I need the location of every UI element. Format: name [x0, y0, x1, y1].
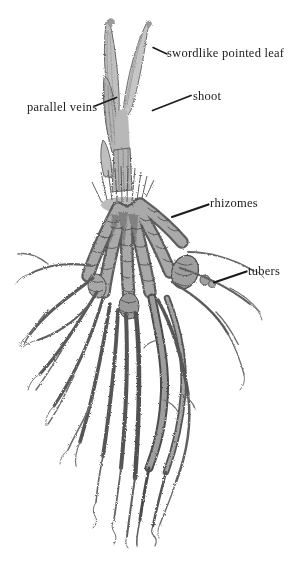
leader-tubers: [214, 272, 247, 283]
leader-swordlike-pointed-leaf: [153, 48, 167, 55]
label-rhizomes: rhizomes: [210, 197, 258, 210]
leader-rhizomes: [172, 205, 209, 218]
label-tubers: tubers: [248, 265, 280, 278]
figure: swordlike pointed leaf shoot parallel ve…: [0, 0, 306, 573]
plant-illustration: [0, 0, 306, 573]
label-parallel-veins: parallel veins: [27, 101, 98, 114]
label-shoot: shoot: [193, 90, 221, 103]
leader-shoot: [153, 96, 192, 111]
label-swordlike-pointed-leaf: swordlike pointed leaf: [167, 47, 284, 60]
roots-group: [16, 252, 264, 548]
